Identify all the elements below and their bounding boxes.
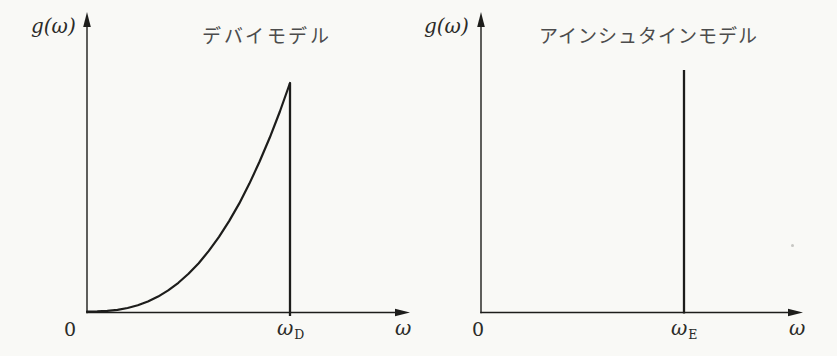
debye-x-axis-label: ω (395, 318, 411, 338)
debye-y-axis-arrowhead (83, 12, 91, 27)
einstein-cutoff-label: ωE (671, 318, 697, 342)
debye-cutoff-subscript: D (294, 327, 304, 342)
einstein-x-axis-label: ω (789, 318, 805, 338)
debye-y-axis-label: g(ω) (31, 16, 76, 36)
einstein-cutoff-subscript: E (688, 327, 697, 342)
plot-lines-svg (0, 0, 837, 356)
einstein-y-axis-arrowhead (477, 12, 485, 27)
debye-cutoff-omega: ω (277, 316, 293, 340)
debye-dos-curve (87, 83, 290, 312)
einstein-y-axis-label: g(ω) (424, 16, 469, 36)
debye-title: デバイモデル (202, 25, 331, 48)
einstein-cutoff-omega: ω (671, 316, 687, 340)
einstein-origin-label: 0 (472, 320, 484, 339)
debye-origin-label: 0 (64, 320, 76, 339)
debye-cutoff-label: ωD (277, 318, 304, 342)
einstein-title: アインシュタインモデル (539, 25, 758, 48)
scan-speck (791, 244, 794, 247)
figure-canvas: g(ω) デバイモデル 0 ωD ω g(ω) アインシュタインモデル 0 ωE… (0, 0, 837, 356)
